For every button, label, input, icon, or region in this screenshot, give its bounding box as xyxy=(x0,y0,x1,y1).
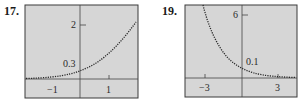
graph-19: 6 0.1 −3 3 xyxy=(185,5,297,97)
graph-17-y-tick-label: 2 xyxy=(71,19,76,30)
graphs: 2 0.3 −1 1 6 0.1 −3 3 xyxy=(0,0,301,105)
graph-17-x-tick-neg-label: −1 xyxy=(47,84,58,95)
graph-19-x-tick-neg-label: −3 xyxy=(199,82,210,93)
graph-19-intercept-label: 0.1 xyxy=(246,56,259,67)
graph-17-x-tick-pos-label: 1 xyxy=(106,84,111,95)
graph-19-x-tick-pos-label: 3 xyxy=(275,82,280,93)
graph-17-intercept-label: 0.3 xyxy=(63,58,76,69)
graph-19-y-tick-label: 6 xyxy=(233,9,238,20)
graph-17-frame xyxy=(25,5,138,98)
graph-17: 2 0.3 −1 1 xyxy=(25,5,138,98)
